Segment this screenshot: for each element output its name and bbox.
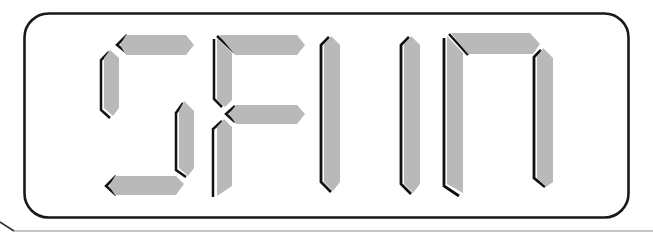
segment-i1-vertical [321,36,340,192]
segment-i2-vertical [401,36,420,194]
segment-n-right [534,48,553,187]
segment-n-left [444,36,463,196]
segment-display-graphic [0,0,653,233]
char-s [101,35,194,195]
segment-f-lower-left [213,119,232,197]
seven-segment-display-panel: SFIIN [0,0,653,233]
segment-s-top [117,35,194,55]
segment-s-bottom [106,176,184,195]
segment-s-upper-left [101,50,119,118]
char-n [444,33,553,196]
char-i-first [321,36,340,192]
segment-s-lower-right [176,101,194,177]
outer-frame [0,222,653,231]
char-f [213,35,305,197]
segment-f-middle [226,105,305,124]
char-i-second [401,36,420,194]
segment-n-top [449,33,540,55]
